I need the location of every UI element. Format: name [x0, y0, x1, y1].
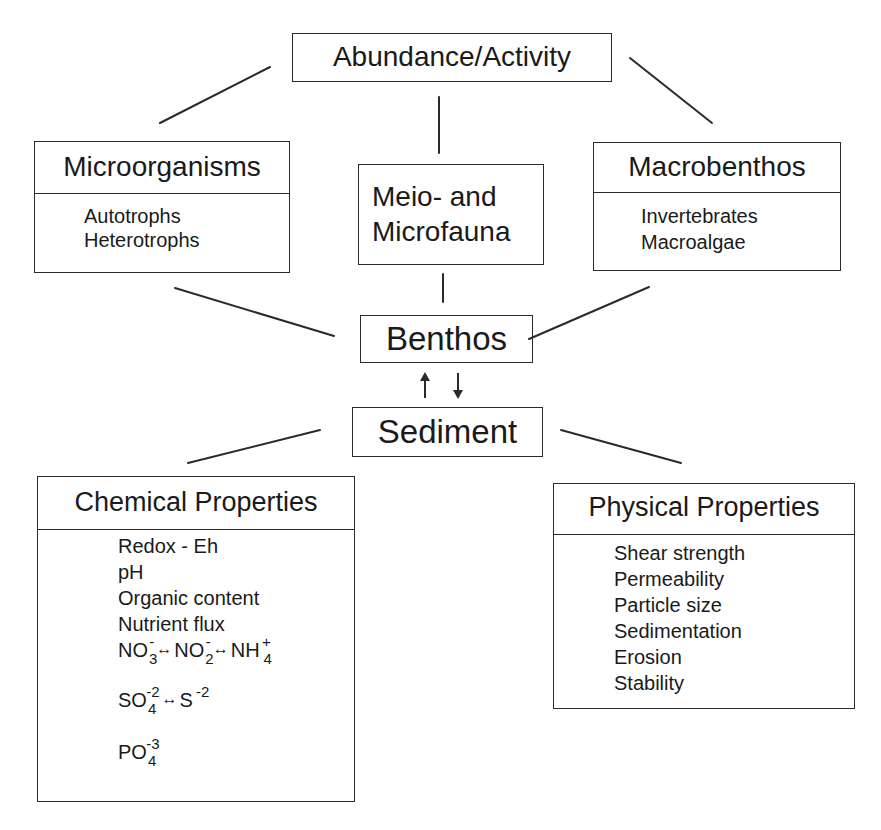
benthos-box: Benthos: [360, 315, 533, 363]
list-item: Heterotrophs: [84, 228, 289, 252]
macrobenthos-title: Macrobenthos: [594, 143, 840, 193]
double-arrow-icon: ↔: [156, 640, 172, 657]
list-item: Sedimentation: [614, 618, 854, 644]
interaction-arrows: [420, 372, 463, 399]
connector-sediment-physical: [561, 430, 681, 463]
meio-title-line-1: Meio- and: [372, 179, 543, 214]
chemical-properties-box: Chemical Properties Redox - Eh pH Organi…: [37, 476, 355, 802]
connector-macrobenthos-benthos: [529, 287, 649, 339]
macrobenthos-list: Invertebrates Macroalgae: [594, 193, 840, 255]
abundance-activity-box: Abundance/Activity: [292, 33, 612, 82]
physical-properties-list: Shear strength Permeability Particle siz…: [554, 535, 854, 696]
arrow-down-head-icon: [453, 390, 463, 399]
connector-sediment-chemical: [188, 430, 320, 463]
benthos-label: Benthos: [361, 316, 532, 361]
double-arrow-icon: ↔: [213, 640, 229, 657]
formula-sulfur-cycle: SO4-2↔S-2: [118, 687, 354, 739]
chemical-formulas: NO3-↔NO2-↔NH4+ SO4-2↔S-2 PO4-3: [38, 637, 354, 767]
formula-phosphate: PO4-3: [118, 739, 354, 767]
list-item: Permeability: [614, 566, 854, 592]
chemical-properties-title: Chemical Properties: [38, 477, 354, 530]
list-item: Shear strength: [614, 540, 854, 566]
macrobenthos-box: Macrobenthos Invertebrates Macroalgae: [593, 142, 841, 271]
chemical-properties-list: Redox - Eh pH Organic content Nutrient f…: [38, 530, 354, 637]
meio-microfauna-box: Meio- and Microfauna: [358, 164, 544, 265]
list-item: Autotrophs: [84, 204, 289, 228]
abundance-activity-label: Abundance/Activity: [293, 34, 611, 80]
list-item: Stability: [614, 670, 854, 696]
sediment-box: Sediment: [352, 407, 543, 457]
meio-microfauna-title: Meio- and Microfauna: [359, 165, 543, 249]
list-item: pH: [118, 559, 354, 585]
connector-abundance-macrobenthos: [630, 58, 712, 123]
list-item: Erosion: [614, 644, 854, 670]
formula-nitrogen-cycle: NO3-↔NO2-↔NH4+: [118, 637, 354, 687]
microorganisms-box: Microorganisms Autotrophs Heterotrophs: [34, 141, 290, 273]
list-item: Redox - Eh: [118, 533, 354, 559]
physical-properties-title: Physical Properties: [554, 484, 854, 535]
list-item: Invertebrates: [641, 203, 840, 229]
arrow-up-head-icon: [420, 372, 430, 381]
microorganisms-list: Autotrophs Heterotrophs: [35, 194, 289, 252]
double-arrow-icon: ↔: [162, 690, 178, 707]
connector-microorganisms-benthos: [175, 288, 334, 336]
list-item: Organic content: [118, 585, 354, 611]
physical-properties-box: Physical Properties Shear strength Perme…: [553, 483, 855, 709]
sediment-label: Sediment: [353, 408, 542, 455]
list-item: Particle size: [614, 592, 854, 618]
microorganisms-title: Microorganisms: [35, 142, 289, 194]
meio-title-line-2: Microfauna: [372, 214, 543, 249]
list-item: Macroalgae: [641, 229, 840, 255]
connector-abundance-microorganisms: [160, 67, 270, 123]
